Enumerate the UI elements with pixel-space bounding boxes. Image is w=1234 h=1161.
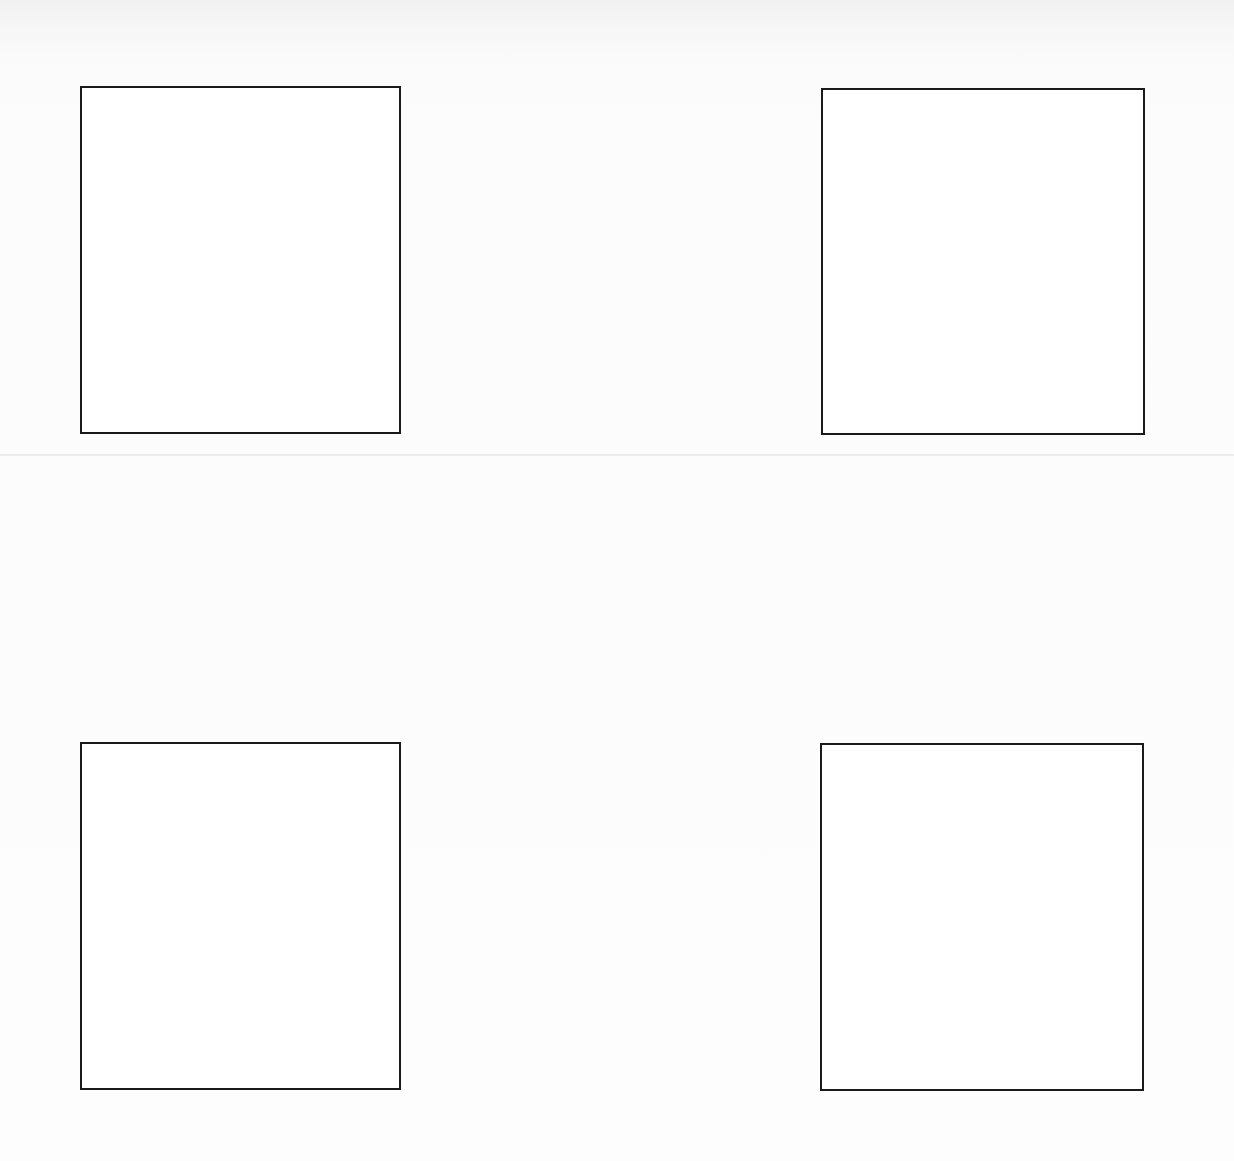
scanned-page: [0, 0, 1234, 1161]
top-left-box: [80, 86, 401, 434]
bottom-right-box: [820, 743, 1144, 1091]
page-fold-line: [0, 454, 1234, 456]
top-right-box: [821, 88, 1145, 435]
bottom-left-box: [80, 742, 401, 1090]
